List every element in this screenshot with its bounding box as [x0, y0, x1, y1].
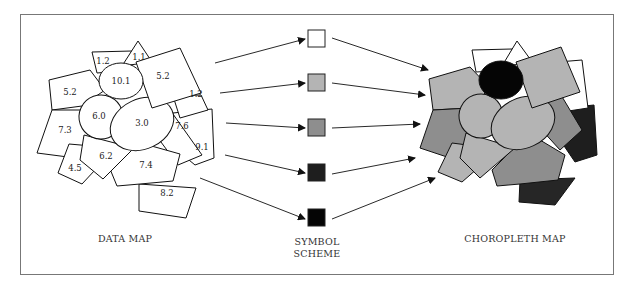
- value-label: 1.1: [132, 52, 146, 62]
- arrow: [332, 38, 428, 70]
- value-label: 9.1: [195, 142, 209, 152]
- value-label: 1.2: [96, 56, 110, 66]
- arrow: [200, 178, 305, 219]
- arrow: [332, 158, 415, 174]
- value-label: 3.0: [135, 118, 149, 128]
- value-label: 8.2: [160, 188, 174, 198]
- value-label: 5.2: [156, 71, 170, 81]
- value-label: 6.0: [92, 111, 106, 121]
- choropleth-map-caption: CHOROPLETH MAP: [450, 233, 580, 245]
- arrow: [332, 83, 425, 95]
- symbol-class-2: [308, 74, 325, 91]
- value-label: 5.2: [63, 87, 77, 97]
- symbol-scheme-caption-line2: SCHEME: [282, 248, 352, 260]
- symbol-scheme: [308, 30, 325, 226]
- symbol-class-3: [308, 119, 325, 136]
- arrows-scheme-to-choropleth: [332, 38, 435, 219]
- arrow: [225, 155, 305, 173]
- value-label: 7.6: [175, 121, 189, 131]
- value-label: 4.5: [68, 163, 82, 173]
- value-label: 1.2: [189, 89, 203, 99]
- data-map-caption: DATA MAP: [70, 233, 180, 245]
- value-label: 7.4: [139, 160, 153, 170]
- arrow: [332, 124, 420, 128]
- symbol-class-4: [308, 164, 325, 181]
- symbol-class-1: [308, 30, 325, 47]
- symbol-scheme-caption-line1: SYMBOL: [282, 236, 352, 248]
- arrow: [220, 83, 305, 93]
- value-label: 6.2: [99, 151, 113, 161]
- arrow: [226, 123, 305, 128]
- arrows-data-to-scheme: [200, 39, 305, 219]
- value-label: 10.1: [112, 76, 131, 86]
- arrow: [332, 178, 435, 219]
- choropleth-map: [420, 41, 597, 205]
- symbol-class-5: [308, 209, 325, 226]
- choro-region-top-ellipse: [479, 61, 523, 99]
- value-label: 7.3: [58, 125, 72, 135]
- arrow: [215, 39, 305, 63]
